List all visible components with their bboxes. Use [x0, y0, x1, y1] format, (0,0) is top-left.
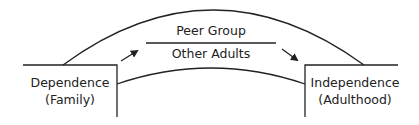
- peer-group-label: Peer Group: [146, 22, 276, 39]
- inner-arc: [117, 68, 305, 84]
- independence-text: Independence: [305, 74, 405, 91]
- arrow-right-icon: [282, 49, 297, 60]
- right-box-label: Independence (Adulthood): [305, 74, 405, 108]
- other-adults-label: Other Adults: [146, 45, 276, 62]
- adulthood-text: (Adulthood): [305, 91, 405, 108]
- family-text: (Family): [23, 91, 117, 108]
- dependence-text: Dependence: [23, 74, 117, 91]
- left-box-label: Dependence (Family): [23, 74, 117, 108]
- arrow-left-icon: [121, 51, 137, 61]
